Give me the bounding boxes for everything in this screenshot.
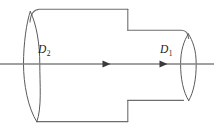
flow-arrow-right bbox=[160, 60, 168, 67]
flow-arrow-left bbox=[103, 60, 111, 67]
small-end-face-far-arc bbox=[188, 34, 196, 101]
small-diameter-subscript: 1 bbox=[169, 49, 173, 58]
large-diameter-subscript: 2 bbox=[47, 49, 51, 58]
small-cylinder-top-edge bbox=[128, 30, 189, 38]
large-diameter-symbol: D2 bbox=[37, 43, 51, 58]
large-diameter-letter: D bbox=[37, 43, 47, 55]
stepped-cylinder-figure: D2 D1 bbox=[0, 0, 221, 129]
large-end-face-far-arc bbox=[30, 12, 40, 122]
large-end-face-near-arc bbox=[24, 12, 37, 122]
diagram-canvas: D2 D1 bbox=[0, 0, 221, 129]
large-cylinder-top-edge bbox=[30, 9, 128, 22]
small-end-face-near-arc bbox=[181, 34, 189, 101]
small-diameter-letter: D bbox=[159, 43, 169, 55]
small-diameter-symbol: D1 bbox=[159, 43, 173, 58]
